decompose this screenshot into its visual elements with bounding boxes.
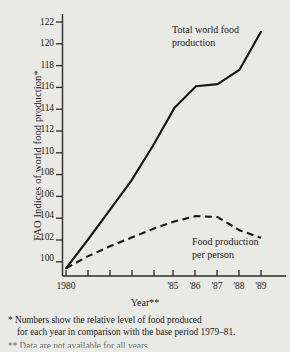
annotation-total-line1: Total world food (172, 24, 239, 37)
y-tick-marks (56, 22, 63, 262)
annotation-person-line1: Food production (192, 236, 258, 249)
footnote-one-cont: for each year in comparison with the bas… (8, 327, 286, 339)
footnote-two-clipped: ** Data are not available for all years. (8, 341, 286, 348)
annotation-total-world-food-production: Total world food production (172, 24, 239, 49)
x-axis-title: Year** (0, 297, 290, 308)
annotation-food-production-per-person: Food production per person (192, 236, 258, 261)
chart-figure: FAO Indices of world food production* 12… (0, 0, 290, 352)
series-line-total-world-food-production (66, 32, 261, 269)
footnote-one-lead: * Numbers show the relative level of foo… (8, 315, 202, 325)
figure-footnotes: * Numbers show the relative level of foo… (8, 315, 286, 338)
x-tick-marks (66, 270, 261, 276)
annotation-total-line2: production (172, 37, 239, 50)
annotation-person-line2: per person (192, 249, 258, 262)
footnote-one: * Numbers show the relative level of foo… (8, 315, 286, 338)
